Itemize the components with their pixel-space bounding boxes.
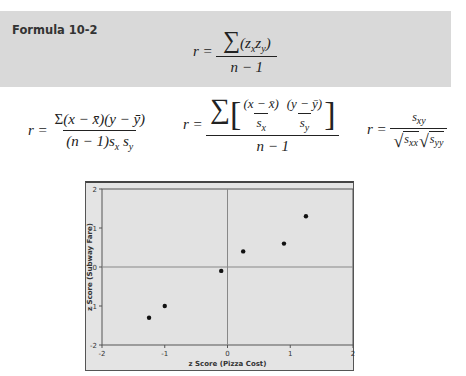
x-tick-label: -1 [161, 350, 168, 358]
alt-formula-3-fraction: sxy √sxx√syy [390, 110, 447, 151]
alt-formula-2-denominator: n − 1 [206, 135, 339, 155]
main-formula: r = ∑(zxzy) n − 1 [193, 30, 277, 76]
alt-formula-1: r = Σ(x − x̄)(y − ȳ) (n − 1)sx sy [28, 111, 148, 152]
x-tick-label: 2 [351, 350, 355, 358]
data-point [282, 241, 286, 245]
alt-formula-2-lhs: r = [183, 116, 203, 132]
data-point [147, 316, 151, 320]
main-formula-fraction: ∑(zxzy) n − 1 [216, 30, 277, 76]
alt-formula-2-numerator: ∑[(x − x̄)sx (y − ȳ)sy] [207, 96, 338, 135]
scatter-chart: -2-1012-2-1012z Score (Pizza Cost)z Scor… [85, 181, 354, 371]
x-axis-label: z Score (Pizza Cost) [189, 360, 267, 368]
x-tick-label: 1 [288, 350, 292, 358]
alt-formula-2-fraction: ∑[(x − x̄)sx (y − ȳ)sy] n − 1 [206, 96, 339, 155]
alt-formula-3-lhs: r = [367, 121, 387, 137]
alt-formula-2: r = ∑[(x − x̄)sx (y − ȳ)sy] n − 1 [183, 96, 339, 155]
main-formula-numerator: ∑(zxzy) [220, 30, 274, 56]
main-formula-lhs: r = [193, 43, 213, 59]
main-formula-denominator: n − 1 [216, 56, 277, 76]
alt-formula-1-fraction: Σ(x − x̄)(y − ȳ) (n − 1)sx sy [51, 111, 148, 152]
data-point [219, 269, 223, 273]
x-tick-label: -2 [99, 350, 106, 358]
formula-box: Formula 10-2 r = ∑(zxzy) n − 1 [0, 11, 451, 87]
x-tick-label: 0 [225, 350, 229, 358]
y-axis-label: z Score (Subway Fare) [86, 223, 94, 311]
y-tick-label: -2 [90, 342, 97, 350]
data-point [304, 214, 308, 218]
alt-formula-1-denominator: (n − 1)sx sy [63, 130, 136, 152]
alt-formula-3-numerator: sxy [409, 110, 429, 128]
formula-title: Formula 10-2 [12, 23, 98, 37]
scatter-plot-svg: -2-1012-2-1012z Score (Pizza Cost)z Scor… [86, 183, 355, 373]
alt-formula-3-denominator: √sxx√syy [390, 128, 447, 150]
y-tick-label: 2 [93, 186, 97, 194]
data-point [163, 304, 167, 308]
alt-formula-3: r = sxy √sxx√syy [367, 110, 447, 151]
alt-formula-1-numerator: Σ(x − x̄)(y − ȳ) [51, 111, 148, 130]
alt-formula-1-lhs: r = [28, 122, 48, 138]
data-point [241, 249, 245, 253]
